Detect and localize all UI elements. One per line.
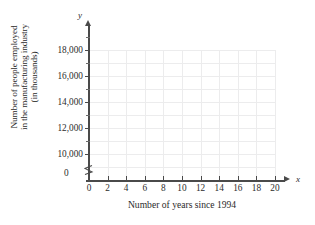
- y-tick-major: [85, 76, 90, 77]
- x-axis-arrow-icon: [284, 176, 290, 182]
- x-tick: [145, 176, 146, 180]
- gridline-vertical: [275, 50, 276, 180]
- x-tick-label: 20: [263, 183, 287, 193]
- y-tick-major: [85, 102, 90, 103]
- plot-area: [89, 50, 275, 180]
- gridline-horizontal: [89, 50, 275, 51]
- y-tick-major: [85, 128, 90, 129]
- y-tick-minor: [86, 63, 90, 64]
- x-tick: [256, 176, 257, 180]
- gridline-horizontal: [89, 102, 275, 103]
- gridline-horizontal: [89, 89, 275, 90]
- y-tick-label: 14,000: [57, 97, 83, 107]
- x-tick: [238, 176, 239, 180]
- x-tick: [201, 176, 202, 180]
- x-tick: [275, 176, 276, 180]
- y-tick-minor: [86, 89, 90, 90]
- y-axis-break-icon: [84, 162, 94, 175]
- gridline-horizontal: [89, 154, 275, 155]
- y-tick-label: 18,000: [57, 45, 83, 55]
- x-tick: [182, 176, 183, 180]
- y-tick-label: 16,000: [57, 71, 83, 81]
- x-tick: [163, 176, 164, 180]
- y-tick-major: [85, 154, 90, 155]
- gridline-horizontal: [89, 76, 275, 77]
- x-tick: [126, 176, 127, 180]
- x-tick: [219, 176, 220, 180]
- gridline-horizontal: [89, 128, 275, 129]
- gridline-horizontal: [89, 115, 275, 116]
- x-tick: [108, 176, 109, 180]
- x-axis-line: [86, 180, 285, 182]
- y-tick-label: 12,000: [57, 123, 83, 133]
- y-tick-label-group: 18,000 16,000 14,000 12,000 10,000: [0, 0, 83, 225]
- y-tick-label: 10,000: [57, 149, 83, 159]
- y-tick-major: [85, 50, 90, 51]
- origin-label: 0: [64, 168, 69, 178]
- x-axis-variable-label: x: [296, 174, 300, 184]
- gridline-horizontal: [89, 167, 275, 168]
- y-tick-minor: [86, 37, 90, 38]
- y-axis-arrow-icon: [85, 20, 91, 26]
- gridline-horizontal: [89, 63, 275, 64]
- y-tick-minor: [86, 115, 90, 116]
- gridline-horizontal: [89, 141, 275, 142]
- y-tick-minor: [86, 141, 90, 142]
- x-axis-title: Number of years since 1994: [89, 199, 275, 210]
- x-tick: [89, 176, 90, 180]
- blank-coordinate-graph: Number of people employed in the manufac…: [0, 0, 315, 225]
